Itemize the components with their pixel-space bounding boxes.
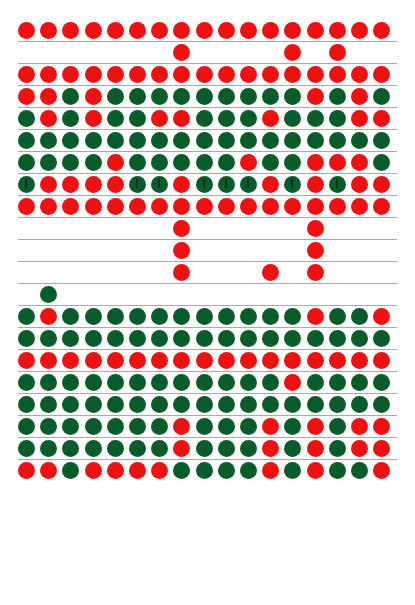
green-dot [329,374,346,391]
red-dot [85,88,102,105]
green-dot [107,396,124,413]
green-dot [307,396,324,413]
red-dot [107,154,124,171]
green-dot [18,440,35,457]
red-dot [62,22,79,39]
green-dot [196,462,213,479]
green-dot [240,396,257,413]
red-dot [240,198,257,215]
red-dot [262,418,279,435]
red-dot [129,66,146,83]
red-dot [151,110,168,127]
dot-row [0,152,415,174]
red-dot [218,198,235,215]
green-dot [129,132,146,149]
green-dot [129,330,146,347]
green-dot [18,176,35,193]
red-dot [107,198,124,215]
red-dot [173,352,190,369]
green-dot [151,176,168,193]
green-dot [85,374,102,391]
red-dot [129,22,146,39]
red-dot [62,176,79,193]
red-dot [62,66,79,83]
red-dot [351,22,368,39]
red-dot [373,110,390,127]
green-dot [173,330,190,347]
green-dot [151,132,168,149]
green-dot [196,154,213,171]
green-dot [284,440,301,457]
red-dot [373,66,390,83]
green-dot [284,88,301,105]
red-dot [40,352,57,369]
red-dot [18,352,35,369]
red-dot [85,22,102,39]
dot-row [0,86,415,108]
red-dot [173,176,190,193]
green-dot [218,110,235,127]
red-dot [151,462,168,479]
dot-row [0,240,415,262]
green-dot [129,308,146,325]
green-dot [62,88,79,105]
green-dot [240,308,257,325]
red-dot [373,418,390,435]
red-dot [240,154,257,171]
red-dot [262,440,279,457]
green-dot [262,132,279,149]
red-dot [351,110,368,127]
green-dot [218,154,235,171]
red-dot [351,176,368,193]
green-dot [196,330,213,347]
green-dot [85,308,102,325]
dot-row [0,64,415,86]
green-dot [173,396,190,413]
green-dot [329,418,346,435]
green-dot [40,286,57,303]
dot-row [0,174,415,196]
red-dot [173,198,190,215]
red-dot [196,22,213,39]
red-dot [307,66,324,83]
green-dot [173,308,190,325]
dot-row [0,328,415,350]
green-dot [107,374,124,391]
red-dot [196,352,213,369]
green-dot [196,308,213,325]
red-dot [107,352,124,369]
green-dot [173,462,190,479]
dot-row [0,438,415,460]
red-dot [85,352,102,369]
red-dot [307,264,324,281]
green-dot [373,374,390,391]
green-dot [218,330,235,347]
dot-row [0,262,415,284]
green-dot [351,330,368,347]
dot-row [0,416,415,438]
red-dot [107,22,124,39]
red-dot [284,66,301,83]
red-dot [284,44,301,61]
red-dot [351,154,368,171]
green-dot [329,462,346,479]
green-dot [284,308,301,325]
green-dot [329,440,346,457]
red-dot [307,418,324,435]
green-dot [218,374,235,391]
red-dot [218,22,235,39]
green-dot [262,88,279,105]
green-dot [218,176,235,193]
green-dot [218,418,235,435]
red-dot [262,264,279,281]
green-dot [40,418,57,435]
red-dot [351,352,368,369]
red-dot [307,198,324,215]
green-dot [107,330,124,347]
red-dot [329,352,346,369]
red-dot [173,440,190,457]
red-dot [196,198,213,215]
dot-row [0,108,415,130]
green-dot [40,374,57,391]
green-dot [240,132,257,149]
